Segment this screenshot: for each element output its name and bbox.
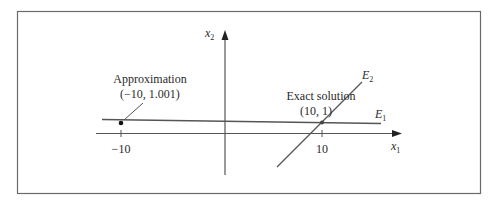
exact-solution-title: Exact solution [287, 89, 356, 103]
approximation-point [119, 121, 124, 126]
approximation-leader-line [124, 103, 143, 120]
y-axis-arrow-icon [222, 30, 229, 40]
tick-label-neg10: −10 [112, 142, 131, 156]
approximation-title: Approximation [113, 72, 186, 86]
x-axis-label: x1 [390, 139, 400, 155]
line-e2-label: E2 [361, 68, 373, 84]
exact-solution-point [320, 121, 324, 125]
tick-label-10: 10 [316, 142, 328, 156]
approximation-coords: (−10, 1.001) [120, 87, 180, 101]
line-e1 [102, 120, 381, 124]
y-axis-label: x2 [204, 26, 214, 42]
x-axis-arrow-icon [392, 130, 402, 137]
figure-frame [18, 12, 481, 194]
exact-solution-coords: (10, 1) [300, 104, 332, 118]
line-e1-label: E1 [374, 107, 386, 123]
diagram-canvas: x2 x1 −10 10 E1 E2 Approximation (−10, 1… [0, 0, 493, 201]
